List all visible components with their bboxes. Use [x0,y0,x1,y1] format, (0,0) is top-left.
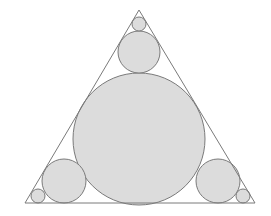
circle-right-medium [196,159,240,203]
circle-packing-diagram [0,0,271,216]
circle-incircle [73,73,205,205]
circle-left-medium [42,159,86,203]
circles-group [31,17,250,205]
circle-left-small [31,189,45,203]
circle-top-medium [118,31,160,73]
